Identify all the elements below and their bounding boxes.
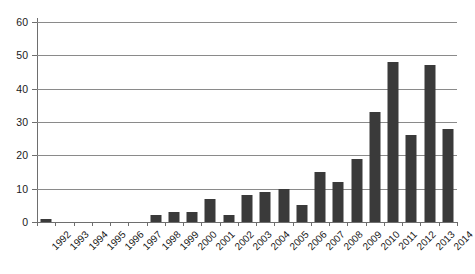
bar-2000	[187, 212, 198, 222]
x-tick-mark	[274, 222, 275, 226]
x-tick-mark	[384, 222, 385, 226]
bar-slot	[183, 22, 201, 222]
bar-2002	[223, 215, 234, 222]
bar-2014	[442, 129, 453, 222]
x-tick-label-1997: 1997	[142, 229, 165, 252]
x-axis-line	[37, 222, 457, 223]
bar-2009	[351, 159, 362, 222]
bar-slot	[256, 22, 274, 222]
y-tick-label: 40	[16, 83, 28, 94]
bar-slot	[274, 22, 292, 222]
bar-slot	[110, 22, 128, 222]
x-tick-label-1993: 1993	[68, 229, 91, 252]
bar-1992	[41, 219, 52, 222]
bar-2012	[406, 135, 417, 222]
bar-1998	[150, 215, 161, 222]
x-tick-mark	[366, 222, 367, 226]
bar-slot	[293, 22, 311, 222]
bar-slot	[384, 22, 402, 222]
bar-slot	[347, 22, 365, 222]
y-tick-label: 50	[16, 50, 28, 61]
bar-slot	[37, 22, 55, 222]
bar-2010	[369, 112, 380, 222]
bar-slot	[92, 22, 110, 222]
x-tick-mark	[74, 222, 75, 226]
bar-2007	[315, 172, 326, 222]
bar-slot	[55, 22, 73, 222]
x-tick-label-2012: 2012	[415, 229, 438, 252]
bar-2003	[241, 195, 252, 222]
x-tick-mark	[457, 222, 458, 226]
x-tick-mark	[347, 222, 348, 226]
bar-slot	[201, 22, 219, 222]
bar-2008	[333, 182, 344, 222]
y-tick-label: 10	[16, 183, 28, 194]
bar-slot	[74, 22, 92, 222]
x-tick-mark	[293, 222, 294, 226]
bar-2013	[424, 65, 435, 222]
x-tick-mark	[256, 222, 257, 226]
x-tick-mark	[311, 222, 312, 226]
x-tick-label-2008: 2008	[342, 229, 365, 252]
bar-slot	[238, 22, 256, 222]
x-tick-mark	[329, 222, 330, 226]
x-tick-mark	[220, 222, 221, 226]
y-tick-label: 60	[16, 17, 28, 28]
bar-2011	[388, 62, 399, 222]
y-tick-label: 0	[22, 217, 28, 228]
x-tick-mark	[128, 222, 129, 226]
bar-2004	[260, 192, 271, 222]
bar-2001	[205, 199, 216, 222]
y-tick-label: 30	[16, 117, 28, 128]
x-tick-mark	[201, 222, 202, 226]
x-tick-mark	[110, 222, 111, 226]
bar-slot	[220, 22, 238, 222]
x-axis-labels: 1992199319941995199619971998199920002001…	[37, 228, 457, 274]
bar-2006	[296, 205, 307, 222]
x-tick-mark	[420, 222, 421, 226]
y-tick-mark-0	[32, 222, 37, 223]
x-tick-label-2005: 2005	[288, 229, 311, 252]
y-tick-label: 20	[16, 150, 28, 161]
bar-slot	[366, 22, 384, 222]
x-tick-label-2014: 2014	[452, 229, 475, 252]
bar-2005	[278, 189, 289, 222]
bar-slot	[128, 22, 146, 222]
x-tick-label-2011: 2011	[397, 229, 419, 251]
x-tick-label-2004: 2004	[269, 229, 292, 252]
bar-slot	[439, 22, 457, 222]
bar-slot	[165, 22, 183, 222]
x-tick-mark	[147, 222, 148, 226]
x-tick-mark	[183, 222, 184, 226]
x-tick-mark	[402, 222, 403, 226]
bar-slot	[147, 22, 165, 222]
bar-slot	[420, 22, 438, 222]
bar-1999	[168, 212, 179, 222]
x-tick-mark	[439, 222, 440, 226]
bar-series	[37, 22, 457, 222]
x-tick-label-2001: 2001	[215, 229, 238, 252]
x-tick-mark	[92, 222, 93, 226]
bar-slot	[329, 22, 347, 222]
x-tick-mark	[165, 222, 166, 226]
x-tick-mark	[238, 222, 239, 226]
bar-slot	[311, 22, 329, 222]
bar-slot	[402, 22, 420, 222]
x-tick-mark	[55, 222, 56, 226]
